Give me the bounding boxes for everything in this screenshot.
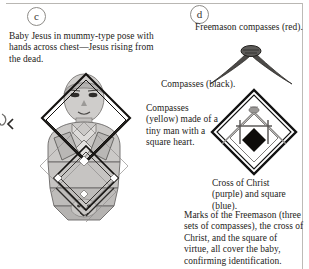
top-rule [6, 3, 303, 4]
caption-cross-of-christ: Cross of Christ (purple) and square (blu… [212, 178, 302, 212]
panel-label-c: c [27, 7, 46, 26]
caption-freemason-compasses-red: Freemason compasses (red). [195, 22, 303, 33]
caption-baby-jesus: Baby Jesus in mummy-type pose with hands… [9, 31, 155, 65]
plate-canvas: c d Baby Jesus in mummy-type pose with h… [0, 0, 309, 269]
compasses-cross-square-emblem [206, 86, 302, 178]
caption-marks-summary: Marks of the Freemason (three sets of co… [184, 210, 304, 267]
baby-jesus-mummy-figure [18, 70, 150, 222]
freemason-compasses-red [200, 44, 300, 86]
partial-edge-mark-icon [0, 110, 14, 140]
